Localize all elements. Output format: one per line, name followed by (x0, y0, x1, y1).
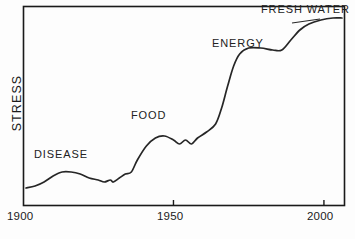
x-tick-label-1950: 1950 (157, 210, 183, 222)
annotation-fresh-water: FRESH WATER (261, 3, 350, 15)
annotation-energy: ENERGY (212, 37, 264, 49)
stress-curve (26, 18, 342, 188)
annotation-food: FOOD (131, 109, 166, 121)
y-axis-label: STRESS (10, 60, 24, 146)
x-tick-label-1900: 1900 (7, 210, 33, 222)
chart-plot-area (0, 0, 355, 239)
annotation-disease: DISEASE (34, 148, 88, 160)
chart-figure: STRESS 1900 1950 2000 DISEASE FOOD ENERG… (0, 0, 355, 239)
x-tick-label-2000: 2000 (307, 210, 333, 222)
plot-frame (24, 7, 345, 206)
